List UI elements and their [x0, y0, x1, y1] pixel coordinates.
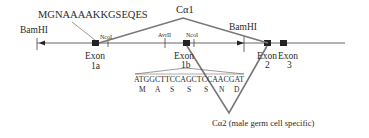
ncoi-2-label: NcoI	[186, 32, 198, 38]
avrii-label: AvrII	[158, 32, 171, 38]
bamhi-right-label: BamHI	[229, 22, 257, 32]
peptide-pointer	[72, 22, 95, 40]
exon-1b-id: 1b	[181, 60, 191, 70]
aa-7: D	[234, 85, 240, 94]
aa-1: M	[139, 85, 146, 94]
aa-6: N	[219, 85, 225, 94]
exon-1a-id: 1a	[91, 61, 101, 71]
ncoi-1-label: NcoI	[100, 34, 112, 40]
arrow-left-icon	[39, 41, 45, 46]
arrow-right-icon	[237, 41, 244, 46]
exon-3-id: 3	[287, 60, 292, 70]
exon-3-box	[280, 40, 287, 46]
peptide-label: MGNAAAAKKGSEQES	[38, 9, 148, 20]
aa-2: A	[155, 85, 161, 94]
aa-3: S	[170, 85, 174, 94]
exon-2-id: 2	[265, 60, 270, 70]
bamhi-left-label: BamHI	[20, 25, 48, 35]
exon-1a-box	[92, 40, 99, 46]
gene-diagram: MGNAAAAKKGSEQES Cα1 BamHI NcoI AvrII Nco…	[0, 0, 369, 138]
exon-1a-label: Exon	[85, 51, 105, 61]
dna-sequence: ATGGCTTCCAGCTCCAACGAT	[134, 75, 244, 84]
seq-bracket-left	[135, 68, 186, 74]
aa-5: S	[204, 85, 208, 94]
c-alpha2-label: Cα2 (male germ cell specific)	[212, 118, 314, 128]
aa-4: S	[187, 85, 191, 94]
seq-bracket-right	[186, 68, 244, 74]
exon-1b-box	[183, 40, 190, 46]
c-alpha1-label: Cα1	[176, 4, 194, 15]
